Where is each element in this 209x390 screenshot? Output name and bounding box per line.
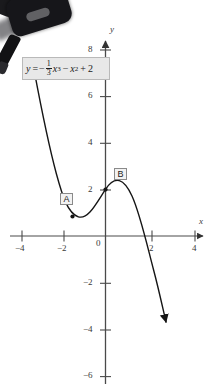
equation-lhs: y [26, 63, 30, 74]
point-tag-b[interactable]: B [114, 168, 127, 180]
y-tick-label--6: −6 [83, 370, 93, 380]
equation-label-box: y = − 1 3 x 3 − x 2 + 2 [22, 57, 110, 80]
equation-constant: 2 [88, 63, 93, 74]
equation-leading-minus: − [39, 63, 45, 74]
x-axis-label: x [199, 216, 203, 226]
x-tick-label--2: −2 [57, 243, 67, 253]
cubic-curve [34, 71, 166, 322]
equation-fraction-denominator: 3 [46, 69, 52, 77]
x-tick-label-4: 4 [192, 243, 197, 253]
equation-operator-2: + [80, 63, 86, 74]
y-tick-label-6: 6 [88, 90, 93, 100]
equation-equals: = [32, 63, 38, 74]
figure-canvas: y = − 1 3 x 3 − x 2 + 2 A B x y 0 −4 −2 … [0, 0, 209, 390]
y-axis-label: y [110, 24, 114, 34]
equation-term2-exponent: 2 [75, 65, 79, 73]
y-tick-label-8: 8 [88, 44, 93, 54]
equation-term1-exponent: 3 [57, 65, 61, 73]
x-tick-label-2: 2 [149, 243, 154, 253]
y-tick-label--2: −2 [83, 277, 93, 287]
y-tick-label-2: 2 [88, 184, 93, 194]
point-a-marker [70, 214, 74, 218]
equation-operator-1: − [63, 63, 69, 74]
x-tick-label--4: −4 [15, 243, 25, 253]
origin-label: 0 [96, 238, 101, 248]
y-tick-label-4: 4 [88, 137, 93, 147]
equation-fraction: 1 3 [46, 60, 52, 78]
point-b-marker [103, 188, 107, 192]
y-tick-label--4: −4 [83, 324, 93, 334]
point-tag-a[interactable]: A [60, 193, 73, 205]
